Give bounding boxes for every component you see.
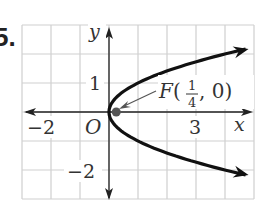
focus-leader-line	[122, 91, 156, 107]
parabola-graph: yx1−2−23O F(14, 0)	[0, 0, 264, 209]
y-tick-neg2: −2	[67, 160, 95, 182]
y-tick-1: 1	[89, 72, 101, 94]
svg-text:, 0): , 0)	[199, 79, 232, 103]
focus-label: F(14, 0)	[158, 75, 254, 110]
x-tick-3: 3	[189, 116, 201, 138]
x-axis-label: x	[234, 113, 245, 135]
svg-text:1: 1	[188, 78, 196, 93]
origin-label: O	[85, 115, 101, 139]
y-axis-label: y	[88, 20, 100, 42]
x-tick-neg2: −2	[27, 116, 55, 138]
svg-text:4: 4	[188, 95, 196, 110]
svg-text:F(: F(	[158, 79, 181, 103]
focus-point	[112, 108, 121, 117]
